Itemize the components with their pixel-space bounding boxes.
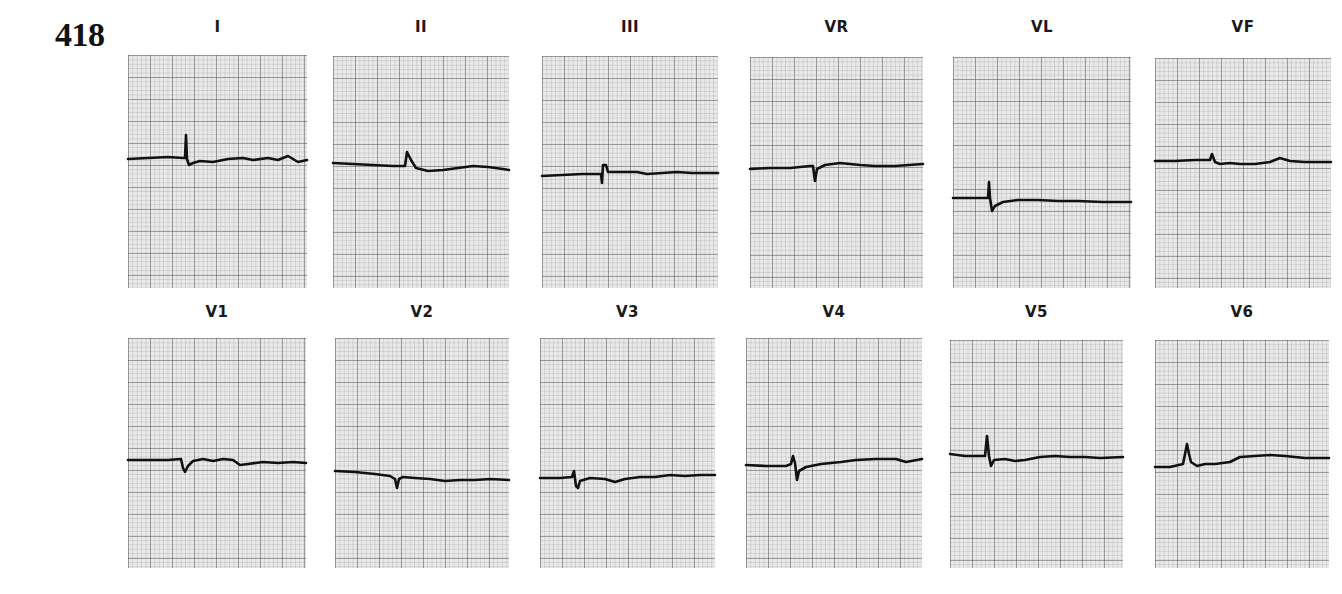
ecg-grid-paper — [128, 55, 307, 288]
lead-label: VF — [1155, 18, 1331, 36]
ecg-grid-paper — [128, 338, 306, 568]
ecg-trace — [540, 338, 715, 568]
ecg-trace — [1155, 340, 1329, 568]
lead-label: V5 — [950, 303, 1123, 321]
ecg-grid-paper — [542, 56, 718, 288]
lead-label: II — [333, 18, 509, 36]
ecg-trace — [953, 57, 1131, 288]
lead-label: V3 — [540, 303, 715, 321]
ecg-grid-paper — [950, 340, 1123, 568]
lead-label: V6 — [1155, 303, 1329, 321]
ecg-trace — [1155, 58, 1331, 288]
ecg-trace — [128, 338, 306, 568]
lead-label: V1 — [128, 303, 306, 321]
lead-label: V2 — [335, 303, 509, 321]
ecg-grid-paper — [540, 338, 715, 568]
figure-number: 418 — [55, 16, 105, 54]
lead-label: V4 — [746, 303, 922, 321]
ecg-trace — [746, 338, 922, 568]
ecg-trace — [750, 57, 923, 288]
ecg-grid-paper — [1155, 58, 1331, 288]
ecg-trace — [335, 338, 509, 568]
lead-label: III — [542, 18, 718, 36]
ecg-grid-paper — [1155, 340, 1329, 568]
ecg-grid-paper — [335, 338, 509, 568]
lead-label: VL — [953, 18, 1131, 36]
ecg-trace — [542, 56, 718, 288]
ecg-trace — [333, 56, 509, 288]
ecg-trace — [128, 55, 307, 288]
ecg-grid-paper — [953, 57, 1131, 288]
lead-label: I — [128, 18, 307, 36]
ecg-grid-paper — [746, 338, 922, 568]
lead-label: VR — [750, 18, 923, 36]
ecg-grid-paper — [750, 57, 923, 288]
ecg-grid-paper — [333, 56, 509, 288]
ecg-trace — [950, 340, 1123, 568]
